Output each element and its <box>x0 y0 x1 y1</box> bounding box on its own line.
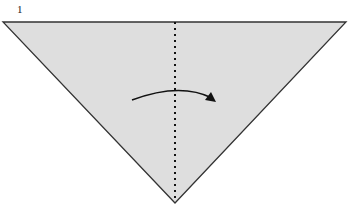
origami-diagram <box>0 0 348 217</box>
